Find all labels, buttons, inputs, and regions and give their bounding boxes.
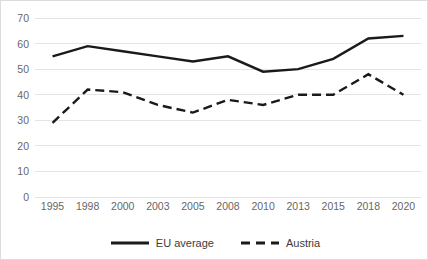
series-lines-group xyxy=(53,36,404,123)
chart-legend: EU averageAustria xyxy=(1,233,428,253)
x-tick-label: 1995 xyxy=(41,201,64,212)
legend-label: EU average xyxy=(156,238,214,249)
gridlines-group xyxy=(35,18,421,197)
legend-item[interactable]: Austria xyxy=(240,238,320,249)
line-chart-canvas xyxy=(1,1,428,260)
y-tick-label: 20 xyxy=(17,141,29,152)
legend-swatch-solid xyxy=(110,238,150,248)
y-tick-label: 40 xyxy=(17,89,29,100)
x-axis: 1995199820002003200520082010201320152018… xyxy=(35,201,421,219)
y-tick-label: 10 xyxy=(17,166,29,177)
x-tick-label: 1998 xyxy=(76,201,99,212)
x-tick-label: 2003 xyxy=(146,201,169,212)
y-tick-label: 0 xyxy=(23,192,29,203)
series-line-2 xyxy=(53,74,404,123)
series-line-1 xyxy=(53,36,404,72)
y-tick-label: 30 xyxy=(17,115,29,126)
y-tick-label: 60 xyxy=(17,38,29,49)
x-tick-label: 2015 xyxy=(322,201,345,212)
legend-item[interactable]: EU average xyxy=(110,238,214,249)
x-tick-label: 2008 xyxy=(216,201,239,212)
legend-swatch-dashed xyxy=(240,238,280,248)
x-tick-label: 2013 xyxy=(286,201,309,212)
y-tick-label: 70 xyxy=(17,13,29,24)
x-tick-label: 2000 xyxy=(111,201,134,212)
legend-label: Austria xyxy=(286,238,320,249)
x-tick-label: 2005 xyxy=(181,201,204,212)
x-tick-label: 2018 xyxy=(357,201,380,212)
x-tick-label: 2010 xyxy=(251,201,274,212)
y-axis: 010203040506070 xyxy=(1,1,29,260)
y-tick-label: 50 xyxy=(17,64,29,75)
x-tick-label: 2020 xyxy=(392,201,415,212)
chart-figure: 010203040506070 199519982000200320052008… xyxy=(0,0,428,260)
